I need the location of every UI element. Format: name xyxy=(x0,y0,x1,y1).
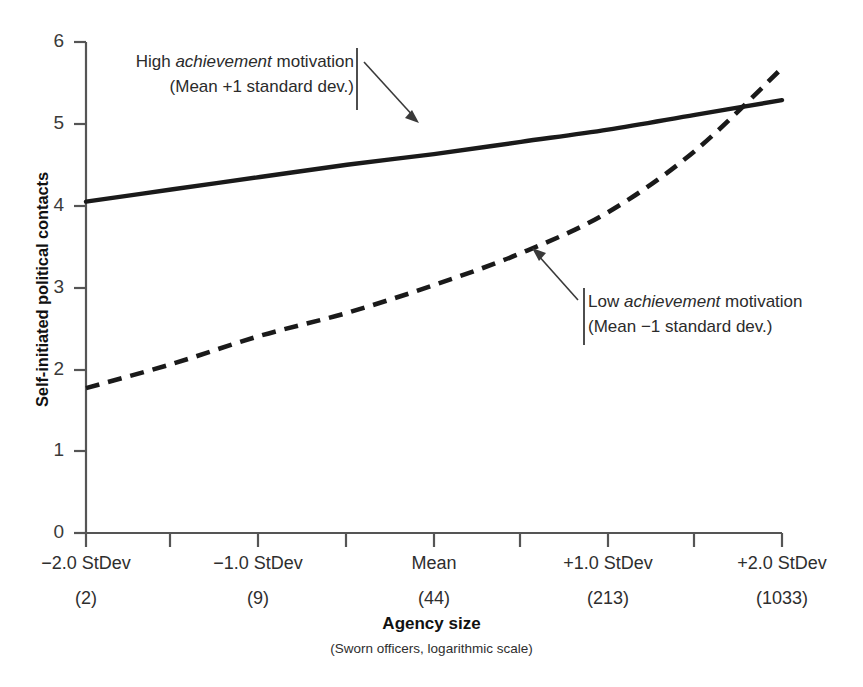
y-tick-label-4: 4 xyxy=(38,194,64,216)
x-axis-subtitle: (Sworn officers, logarithmic scale) xyxy=(0,641,863,656)
y-tick-label-6: 6 xyxy=(38,30,64,52)
annotation-low-line1-pre: Low xyxy=(588,292,624,311)
x-axis-ticks xyxy=(86,533,782,547)
x-tick-sublabel-mean: (44) xyxy=(344,588,524,609)
x-tick-sublabel-plus-2-stdev: (1033) xyxy=(692,588,863,609)
y-tick-label-5: 5 xyxy=(38,112,64,134)
annotation-high-line1-pre: High xyxy=(136,52,176,71)
annotation-high-leader xyxy=(357,48,419,123)
annotation-low-line-1: Low achievement motivation xyxy=(588,290,838,315)
x-tick-group-plus-2-stdev: +2.0 StDev (1033) xyxy=(692,553,863,608)
x-tick-group-mean: Mean (44) xyxy=(344,553,524,608)
x-tick-sublabel-minus-2-stdev: (2) xyxy=(0,588,176,609)
y-tick-label-3: 3 xyxy=(38,276,64,298)
x-tick-label-minus-1-stdev: −1.0 StDev xyxy=(168,553,348,574)
y-tick-label-0: 0 xyxy=(38,521,64,543)
annotation-high-achievement: High achievement motivation (Mean +1 sta… xyxy=(124,50,354,99)
x-tick-label-mean: Mean xyxy=(344,553,524,574)
chart-figure: Self-initiated political contacts 6 5 4 … xyxy=(0,0,863,687)
annotation-high-line1-post: motivation xyxy=(272,52,354,71)
x-tick-label-plus-2-stdev: +2.0 StDev xyxy=(692,553,863,574)
x-tick-sublabel-plus-1-stdev: (213) xyxy=(518,588,698,609)
annotation-high-line-2: (Mean +1 standard dev.) xyxy=(124,75,354,100)
annotation-low-line1-emphasis: achievement xyxy=(624,292,720,311)
annotation-low-line-2: (Mean −1 standard dev.) xyxy=(588,315,838,340)
annotation-low-achievement: Low achievement motivation (Mean −1 stan… xyxy=(588,290,838,339)
x-tick-group-plus-1-stdev: +1.0 StDev (213) xyxy=(518,553,698,608)
x-axis-title: Agency size xyxy=(0,614,863,634)
x-tick-sublabel-minus-1-stdev: (9) xyxy=(168,588,348,609)
annotation-high-line1-emphasis: achievement xyxy=(175,52,271,71)
y-axis-ticks xyxy=(74,42,86,533)
annotation-low-leader xyxy=(532,248,584,345)
y-tick-label-2: 2 xyxy=(38,358,64,380)
x-tick-group-minus-1-stdev: −1.0 StDev (9) xyxy=(168,553,348,608)
x-tick-label-minus-2-stdev: −2.0 StDev xyxy=(0,553,176,574)
series-high-achievement-line xyxy=(86,100,782,201)
annotation-low-line1-post: motivation xyxy=(720,292,802,311)
y-tick-label-1: 1 xyxy=(38,439,64,461)
x-tick-label-plus-1-stdev: +1.0 StDev xyxy=(518,553,698,574)
annotation-high-line-1: High achievement motivation xyxy=(124,50,354,75)
x-tick-group-minus-2-stdev: −2.0 StDev (2) xyxy=(0,553,176,608)
